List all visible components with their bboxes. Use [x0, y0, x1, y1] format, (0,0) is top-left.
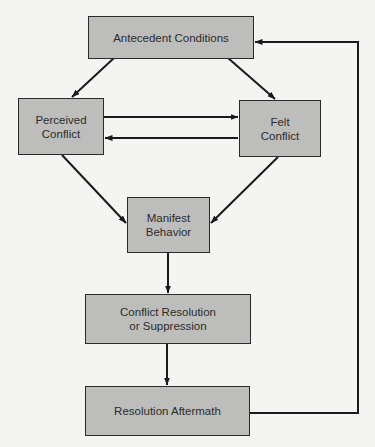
edge-antecedent-to-felt	[228, 58, 275, 99]
node-resolution-aftermath: Resolution Aftermath	[85, 386, 250, 436]
node-felt-conflict: Felt Conflict	[239, 100, 321, 157]
node-antecedent-conditions: Antecedent Conditions	[88, 16, 254, 59]
node-perceived-conflict: Perceived Conflict	[18, 98, 104, 155]
node-conflict-resolution: Conflict Resolution or Suppression	[85, 294, 251, 344]
edge-antecedent-to-perceived	[72, 58, 114, 97]
edge-felt-to-manifest	[211, 157, 278, 223]
edge-aftermath-feedback-to-antecedent	[249, 42, 358, 413]
node-manifest-behavior: Manifest Behavior	[127, 197, 210, 253]
edge-perceived-to-manifest	[62, 155, 126, 223]
